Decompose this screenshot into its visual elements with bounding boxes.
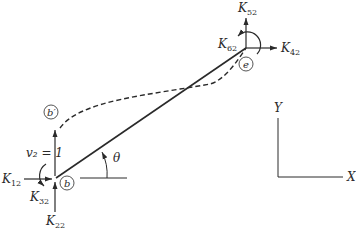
angle-label: θ xyxy=(113,151,121,165)
node-b-label: b xyxy=(64,178,70,189)
force-label-k52: K52 xyxy=(237,1,257,17)
force-label-k42: K42 xyxy=(280,41,300,57)
member-line xyxy=(56,48,246,178)
force-label-k62: K62 xyxy=(217,37,237,53)
structure-diagram: θ v₂ = 1 b′ b K12 K32 K22 K52 K42 K62 e … xyxy=(0,0,356,234)
x-axis-label: X xyxy=(346,170,356,184)
force-label-k32: K32 xyxy=(29,190,49,206)
moment-arrow-k32 xyxy=(40,164,46,186)
y-axis-label: Y xyxy=(274,101,283,115)
node-e-label: e xyxy=(243,59,249,70)
diagram-canvas: θ v₂ = 1 b′ b K12 K32 K22 K52 K42 K62 e … xyxy=(0,0,356,234)
node-b-prime-label: b′ xyxy=(47,107,56,118)
deflected-shape xyxy=(60,48,246,128)
displacement-label: v₂ = 1 xyxy=(26,146,63,160)
angle-arc xyxy=(102,152,107,178)
force-label-k22: K22 xyxy=(45,214,65,230)
force-label-k12: K12 xyxy=(1,172,21,188)
